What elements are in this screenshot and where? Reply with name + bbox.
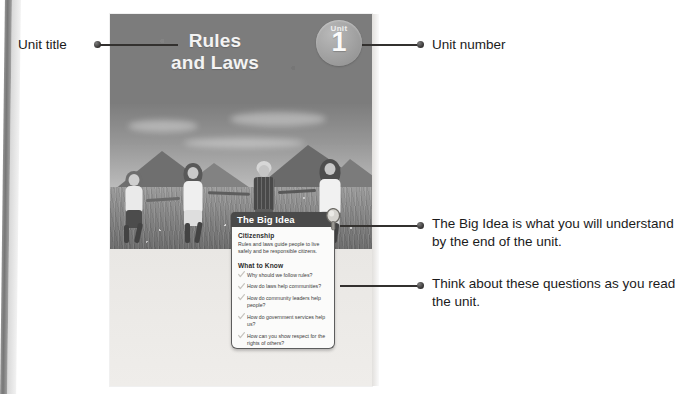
big-idea-title: The Big Idea xyxy=(237,214,295,225)
child-figure xyxy=(114,171,154,243)
question-text: How do community leaders help people? xyxy=(247,295,321,308)
cloud xyxy=(128,120,198,132)
leader-line-questions xyxy=(340,285,418,287)
page-right-edge xyxy=(372,14,379,386)
concept-heading: Citizenship xyxy=(238,232,328,239)
concept-text: Rules and laws guide people to live safe… xyxy=(238,241,328,256)
leader-dot-unit-number xyxy=(417,41,424,48)
big-idea-card: The Big Idea Citizenship Rules and laws … xyxy=(231,212,339,351)
checkmark-icon xyxy=(238,271,245,278)
checkmark-icon xyxy=(238,283,245,290)
list-item: How do community leaders help people? xyxy=(238,295,328,310)
leader-dot-big-idea xyxy=(417,222,424,229)
cloud xyxy=(230,112,326,126)
big-idea-body: Citizenship Rules and laws guide people … xyxy=(231,227,335,349)
question-text: How can you show respect for the rights … xyxy=(247,333,325,346)
question-text: How do laws help communities? xyxy=(247,283,321,289)
checkmark-icon xyxy=(238,313,245,320)
question-text: Why should we follow rules? xyxy=(247,272,312,278)
annotation-questions: Think about these questions as you read … xyxy=(432,275,682,311)
magnifier-icon xyxy=(325,208,342,231)
unit-title-text: Rules and Laws xyxy=(110,30,320,75)
textbook-page: Rules and Laws xyxy=(110,14,372,386)
list-item: Why should we follow rules? xyxy=(238,272,328,279)
annotation-unit-number: Unit number xyxy=(432,36,632,54)
annotation-unit-title: Unit title xyxy=(18,36,98,54)
list-item: How do government services help us? xyxy=(238,314,328,329)
question-text: How do government services help us? xyxy=(247,314,325,327)
leader-line-unit-number xyxy=(362,44,418,46)
what-to-know-heading: What to Know xyxy=(238,262,328,269)
annotation-big-idea: The Big Idea is what you will understand… xyxy=(432,215,682,251)
leader-line-big-idea xyxy=(340,225,418,227)
checkmark-icon xyxy=(238,332,245,339)
child-figure xyxy=(172,163,214,243)
leader-dot-questions xyxy=(417,282,424,289)
leader-line-unit-title xyxy=(100,44,178,46)
list-item: How can you show respect for the rights … xyxy=(238,333,328,348)
checkmark-icon xyxy=(238,294,245,301)
unit-badge-number: 1 xyxy=(316,29,362,56)
list-item: How do laws help communities? xyxy=(238,283,328,290)
unit-number-badge: Unit 1 xyxy=(316,20,362,66)
big-idea-header-bar: The Big Idea xyxy=(231,212,335,227)
